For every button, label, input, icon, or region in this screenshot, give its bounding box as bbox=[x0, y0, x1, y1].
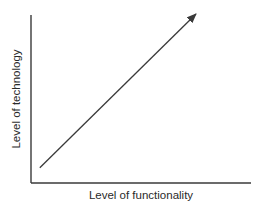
diagram: Level of functionality Level of technolo… bbox=[0, 0, 261, 201]
y-axis-label: Level of technology bbox=[10, 49, 22, 148]
trend-arrow bbox=[40, 14, 196, 168]
x-axis-label: Level of functionality bbox=[89, 189, 193, 201]
